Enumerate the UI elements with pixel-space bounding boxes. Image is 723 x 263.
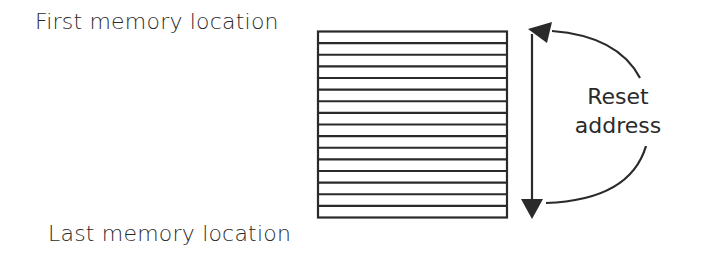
reset-address-label: Reset address	[570, 82, 666, 140]
reset-label-line2: address	[570, 111, 666, 140]
arrowhead-bottom-icon	[521, 199, 543, 219]
first-memory-location-label: First memory location	[35, 9, 279, 34]
memory-block	[318, 32, 507, 218]
last-memory-location-label: Last memory location	[48, 221, 291, 246]
arc-lower	[546, 146, 646, 203]
reset-label-line1: Reset	[570, 82, 666, 111]
arc-upper	[552, 31, 640, 78]
